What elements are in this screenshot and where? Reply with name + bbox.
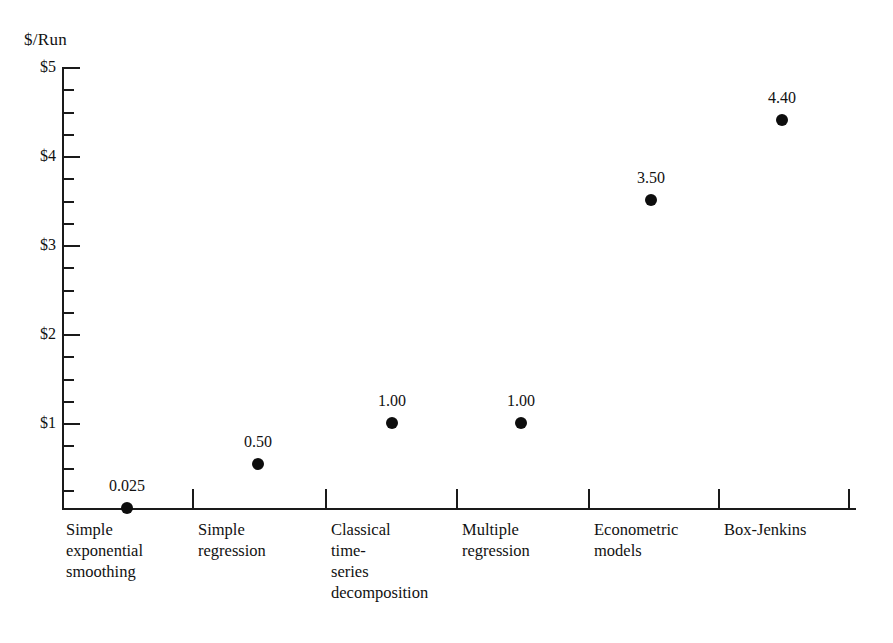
y-tick-minor bbox=[64, 490, 74, 492]
data-point-label: 4.40 bbox=[768, 89, 796, 107]
y-tick-label: $4 bbox=[14, 147, 56, 165]
y-tick-major bbox=[64, 156, 80, 158]
y-tick-major bbox=[64, 67, 80, 69]
x-category-label: Box-Jenkins bbox=[724, 519, 860, 540]
data-point bbox=[776, 114, 788, 126]
y-tick-minor bbox=[64, 379, 74, 381]
y-tick-major bbox=[64, 245, 80, 247]
data-point-label: 0.025 bbox=[109, 477, 145, 495]
x-tick bbox=[848, 489, 850, 510]
y-tick-major bbox=[64, 334, 80, 336]
y-tick-major bbox=[64, 423, 80, 425]
y-tick-label: $3 bbox=[14, 236, 56, 254]
x-category-label: Multiple regression bbox=[462, 519, 586, 561]
x-tick bbox=[588, 489, 590, 510]
data-point bbox=[252, 458, 264, 470]
y-tick-label: $1 bbox=[14, 414, 56, 432]
data-point bbox=[386, 417, 398, 429]
y-tick-minor bbox=[64, 112, 74, 114]
x-tick bbox=[192, 489, 194, 510]
y-tick-minor bbox=[64, 401, 74, 403]
y-tick-label: $2 bbox=[14, 325, 56, 343]
data-point bbox=[121, 502, 133, 514]
data-point-label: 1.00 bbox=[378, 392, 406, 410]
x-category-label: Simple exponential smoothing bbox=[66, 519, 190, 582]
y-tick-minor bbox=[64, 134, 74, 136]
y-tick-minor bbox=[64, 223, 74, 225]
x-category-label: Simple regression bbox=[198, 519, 322, 561]
chart-page: $/Run $5 $4 $3 $2 $1 bbox=[0, 0, 893, 643]
x-category-label: Econometric models bbox=[594, 519, 718, 561]
x-tick bbox=[456, 489, 458, 510]
data-point-label: 1.00 bbox=[507, 392, 535, 410]
y-tick-minor bbox=[64, 468, 74, 470]
x-tick bbox=[718, 489, 720, 510]
y-tick-minor bbox=[64, 445, 74, 447]
y-tick-minor bbox=[64, 290, 74, 292]
data-point-label: 0.50 bbox=[244, 433, 272, 451]
plot-area: $5 $4 $3 $2 $1 0.025 bbox=[0, 0, 893, 643]
x-tick bbox=[325, 489, 327, 510]
x-axis-line bbox=[62, 508, 856, 510]
data-point bbox=[645, 194, 657, 206]
y-tick-label: $5 bbox=[14, 58, 56, 76]
y-tick-minor bbox=[64, 178, 74, 180]
y-tick-minor bbox=[64, 201, 74, 203]
y-tick-minor bbox=[64, 89, 74, 91]
data-point-label: 3.50 bbox=[637, 169, 665, 187]
x-category-label: Classical time- series decomposition bbox=[331, 519, 457, 603]
y-tick-minor bbox=[64, 356, 74, 358]
y-tick-minor bbox=[64, 312, 74, 314]
y-tick-minor bbox=[64, 267, 74, 269]
data-point bbox=[515, 417, 527, 429]
